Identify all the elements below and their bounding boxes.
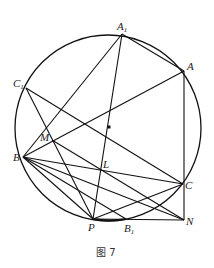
segment-M-N (52, 140, 184, 220)
segments (23, 34, 184, 220)
center-dot (108, 126, 111, 129)
label-B1: B1 (124, 222, 134, 236)
label-A1: A1 (116, 20, 127, 34)
segment-B-P (23, 157, 93, 219)
label-L: L (102, 158, 109, 170)
label-P: P (87, 221, 95, 233)
label-A: A (186, 60, 194, 72)
figure-caption: 图 7 (96, 247, 116, 258)
label-B: B (13, 151, 20, 163)
label-C: C (185, 179, 193, 191)
segment-B-B1 (23, 157, 126, 219)
segment-C1-P (26, 88, 93, 219)
segment-A-B (23, 71, 184, 157)
label-C1: C1 (13, 77, 24, 91)
segment-A1-A (122, 34, 184, 71)
label-M: M (39, 131, 50, 143)
geometry-figure: A1 A C1 M B L C P B1 N 图 7 (0, 0, 214, 268)
label-N: N (185, 215, 194, 227)
